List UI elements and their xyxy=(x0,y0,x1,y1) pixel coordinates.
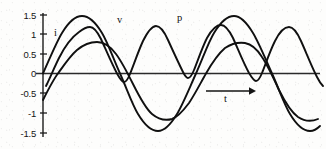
time-arrow-icon xyxy=(205,84,257,98)
y-tick-label-0: 0 xyxy=(8,68,36,79)
power-curve xyxy=(46,25,323,86)
time-axis-label: t xyxy=(224,93,227,104)
y-tick-label-neg-1: -1 xyxy=(4,108,36,119)
waveform-figure: 1.5 1 0.5 0 -0.5 -1 -1.5 i v p t xyxy=(0,0,326,149)
y-tick-label-0-5: 0.5 xyxy=(8,49,36,60)
y-tick-label-1-5: 1.5 xyxy=(8,10,36,21)
current-curve-label: i xyxy=(54,27,57,38)
y-tick-label-neg-0-5: -0.5 xyxy=(4,88,36,99)
power-curve-label: p xyxy=(177,12,182,23)
waveform-plot xyxy=(0,0,326,149)
y-tick-label-1: 1 xyxy=(8,29,36,40)
y-tick-label-neg-1-5: -1.5 xyxy=(4,128,36,139)
voltage-curve-label: v xyxy=(117,14,122,25)
